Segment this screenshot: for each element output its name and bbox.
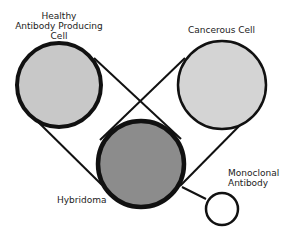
monoclonal-antibody-circle [206, 193, 238, 225]
cancerous-cell-label: Cancerous Cell [188, 25, 255, 35]
healthy-cell-circle [17, 43, 101, 127]
label-line: Cell [14, 31, 104, 41]
hybridoma-circle [98, 121, 184, 207]
hybridoma-label: Hybridoma [57, 195, 107, 205]
healthy-cell-label: Healthy Antibody Producing Cell [14, 11, 104, 41]
cancerous-cell-circle [178, 41, 266, 129]
monoclonal-antibody-label: Monoclonal Antibody [228, 168, 279, 188]
label-line: Monoclonal [228, 168, 279, 178]
label-line: Antibody [228, 178, 279, 188]
label-line: Antibody Producing [14, 21, 104, 31]
label-line: Healthy [14, 11, 104, 21]
line-hybridoma-to-antibody [182, 187, 206, 199]
